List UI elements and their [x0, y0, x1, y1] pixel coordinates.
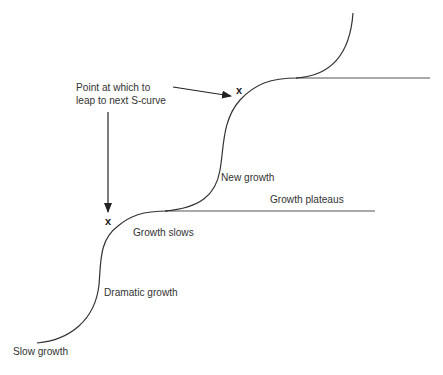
dramatic-growth-label: Dramatic growth: [104, 286, 178, 299]
leap-point-label-line1: Point at which to: [76, 81, 150, 94]
new-growth-label: New growth: [221, 171, 274, 184]
s-curve-diagram: [0, 0, 443, 375]
lower-leap-point-marker: x: [105, 215, 111, 227]
growth-plateaus-label: Growth plateaus: [270, 193, 344, 206]
slow-growth-label: Slow growth: [13, 345, 68, 358]
leap-point-label-line2: leap to next S-curve: [76, 94, 166, 107]
third-s-curve-start: [296, 13, 353, 78]
second-s-curve: [165, 78, 298, 211]
arrow-to-upper-leap-point: [173, 87, 231, 96]
upper-leap-point-marker: x: [236, 84, 242, 96]
growth-slows-label: Growth slows: [133, 226, 194, 239]
